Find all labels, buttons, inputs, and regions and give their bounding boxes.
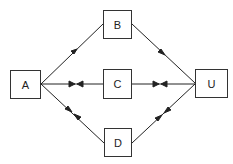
arrowhead-a-b (71, 49, 77, 54)
node-c: C (103, 69, 132, 99)
node-a: A (10, 70, 41, 99)
node-a-label: A (22, 79, 29, 91)
node-u-label: U (208, 78, 216, 90)
node-b-label: B (114, 19, 121, 31)
arrowhead-c-u-1 (153, 81, 159, 87)
arrowhead-a-d-2 (74, 114, 81, 120)
arrowhead-c-u-2 (161, 81, 167, 87)
node-d-label: D (114, 137, 122, 149)
edge-a-b (41, 24, 103, 84)
node-d: D (104, 128, 132, 157)
arrowhead-a-c-2 (77, 81, 83, 87)
node-u: U (195, 69, 228, 98)
node-c-label: C (114, 78, 122, 90)
edge-a-d (41, 84, 104, 143)
arrowhead-a-c-1 (69, 81, 75, 87)
node-b: B (103, 10, 132, 39)
